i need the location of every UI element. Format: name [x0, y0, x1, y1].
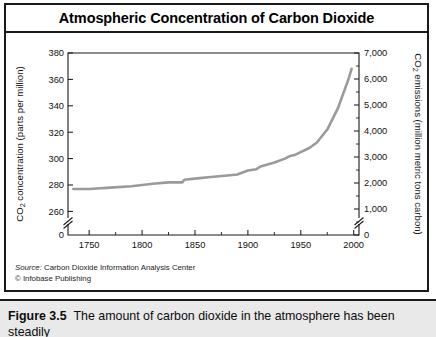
caption-text: Figure 3.5The amount of carbon dioxide i… [0, 301, 436, 337]
svg-text:380: 380 [48, 48, 64, 58]
svg-text:360: 360 [48, 75, 64, 85]
svg-text:CO2 concentration (parts per m: CO2 concentration (parts per million) [14, 66, 27, 221]
source-block: Source: Carbon Dioxide Information Analy… [6, 262, 427, 284]
svg-text:0: 0 [59, 230, 64, 240]
svg-text:320: 320 [48, 128, 64, 138]
caption-band: Figure 3.5The amount of carbon dioxide i… [0, 299, 436, 337]
svg-text:1,000: 1,000 [364, 204, 387, 214]
y-axis-title-left: CO2 concentration (parts per million) [14, 66, 27, 221]
figure-number: Figure 3.5 [8, 309, 67, 323]
chart-container: Atmospheric Concentration of Carbon Diox… [4, 3, 429, 292]
svg-text:3,000: 3,000 [364, 152, 387, 162]
page-title: Atmospheric Concentration of Carbon Diox… [59, 10, 375, 26]
svg-text:1750: 1750 [79, 240, 100, 250]
source-text: Carbon Dioxide Information Analysis Cent… [42, 263, 195, 272]
plot-area: 260280300320340360380001,0002,0003,0004,… [6, 33, 427, 262]
co2-line-chart: 260280300320340360380001,0002,0003,0004,… [6, 33, 427, 262]
svg-text:1850: 1850 [185, 240, 206, 250]
source-line: Source: Carbon Dioxide Information Analy… [15, 262, 427, 273]
source-keyword: Source: [15, 263, 42, 272]
svg-text:7,000: 7,000 [364, 48, 387, 58]
svg-text:1800: 1800 [132, 240, 153, 250]
svg-text:5,000: 5,000 [364, 100, 387, 110]
figure-root: Atmospheric Concentration of Carbon Diox… [0, 0, 436, 337]
svg-text:2,000: 2,000 [364, 178, 387, 188]
svg-text:300: 300 [48, 154, 64, 164]
credit-line: © Infobase Publishing [15, 273, 427, 284]
svg-text:CO2 emissions (million metric: CO2 emissions (million metric tons carbo… [411, 53, 424, 235]
svg-text:1950: 1950 [290, 240, 311, 250]
svg-text:340: 340 [48, 101, 64, 111]
svg-text:2000: 2000 [343, 240, 364, 250]
svg-text:280: 280 [48, 180, 64, 190]
chart-title-band: Atmospheric Concentration of Carbon Diox… [6, 5, 427, 33]
svg-text:260: 260 [48, 207, 64, 217]
svg-text:4,000: 4,000 [364, 126, 387, 136]
y-axis-title-right: CO2 emissions (million metric tons carbo… [411, 53, 424, 235]
data-series-line [73, 69, 351, 189]
svg-text:0: 0 [364, 230, 369, 240]
svg-text:1900: 1900 [238, 240, 259, 250]
svg-text:6,000: 6,000 [364, 74, 387, 84]
